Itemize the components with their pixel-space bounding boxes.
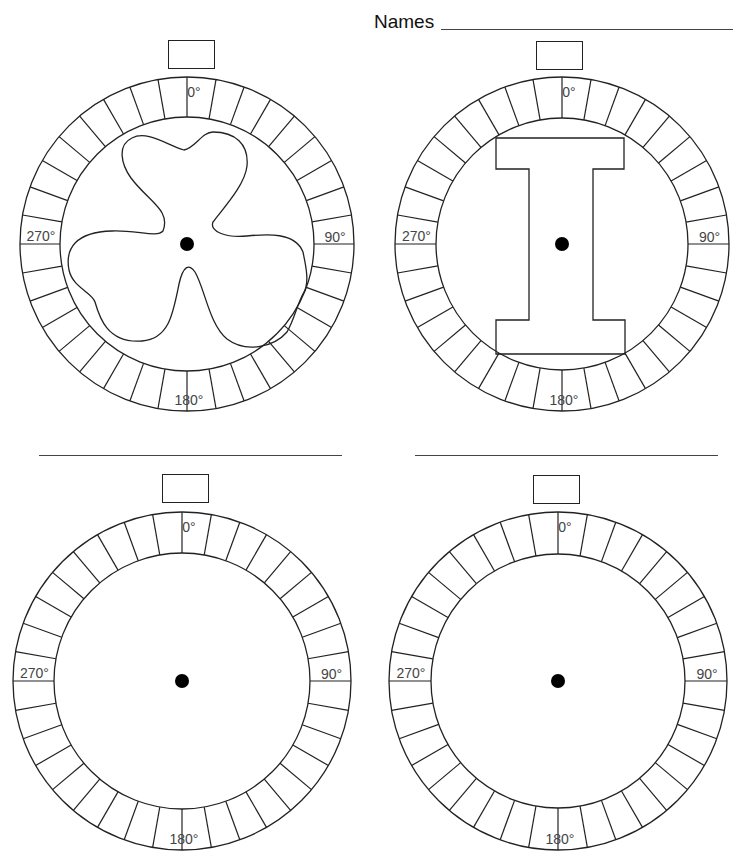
degree-tick bbox=[226, 801, 240, 840]
degree-tick bbox=[643, 341, 669, 372]
degree-tick bbox=[30, 287, 68, 301]
degree-tick bbox=[505, 362, 519, 401]
degree-tick bbox=[584, 368, 591, 408]
label-270: 270° bbox=[402, 228, 431, 244]
degree-tick bbox=[302, 623, 341, 637]
label-90: 90° bbox=[321, 666, 342, 682]
degree-tick bbox=[98, 792, 119, 828]
degree-tick bbox=[104, 99, 124, 134]
degree-tick bbox=[671, 161, 707, 182]
degree-tick bbox=[209, 369, 216, 408]
degree-tick bbox=[293, 597, 329, 618]
degree-tick bbox=[399, 724, 438, 738]
degree-tick bbox=[455, 341, 481, 372]
degree-tick bbox=[474, 535, 495, 571]
degree-tick bbox=[302, 725, 341, 739]
degree-tick bbox=[601, 800, 615, 839]
degree-tick bbox=[622, 791, 643, 827]
center-pivot-dot bbox=[175, 674, 189, 688]
degree-tick bbox=[308, 703, 348, 710]
degree-tick bbox=[580, 515, 587, 556]
degree-tick bbox=[312, 266, 351, 273]
label-0: 0° bbox=[562, 84, 575, 100]
degree-tick bbox=[130, 363, 144, 401]
center-pivot-dot bbox=[555, 237, 569, 251]
degree-tick bbox=[686, 266, 726, 273]
degree-tick bbox=[398, 215, 438, 222]
degree-tick bbox=[668, 745, 704, 766]
degree-tick bbox=[53, 572, 84, 598]
degree-tick bbox=[605, 87, 619, 126]
degree-tick bbox=[680, 287, 719, 301]
label-0: 0° bbox=[182, 519, 195, 535]
degree-tick bbox=[280, 763, 311, 789]
degree-tick bbox=[500, 522, 514, 561]
degree-tick bbox=[671, 307, 707, 328]
degree-tick bbox=[529, 806, 536, 847]
degree-tick bbox=[80, 341, 106, 372]
degree-tick bbox=[124, 522, 138, 561]
wheel-3: 0°90°180°270° bbox=[13, 512, 351, 850]
degree-tick bbox=[59, 326, 90, 352]
degree-tick bbox=[533, 80, 540, 120]
degree-tick bbox=[73, 552, 99, 583]
degree-tick bbox=[399, 623, 438, 637]
degree-tick bbox=[392, 652, 433, 659]
degree-tick bbox=[500, 800, 514, 839]
degree-tick bbox=[622, 535, 643, 571]
degree-tick bbox=[306, 287, 344, 301]
degree-tick bbox=[640, 778, 667, 810]
degree-tick bbox=[251, 354, 271, 389]
label-90: 90° bbox=[324, 229, 345, 245]
degree-tick bbox=[683, 703, 724, 710]
degree-tick bbox=[80, 116, 106, 147]
wheel-1: 0°90°180°270° bbox=[20, 77, 354, 411]
degree-tick bbox=[601, 522, 615, 561]
label-270: 270° bbox=[20, 665, 49, 681]
label-90: 90° bbox=[696, 666, 717, 682]
degree-tick bbox=[529, 515, 536, 556]
degree-tick bbox=[36, 745, 72, 766]
degree-tick bbox=[269, 341, 295, 372]
degree-tick bbox=[449, 778, 476, 810]
label-180: 180° bbox=[170, 831, 199, 847]
degree-tick bbox=[264, 779, 290, 810]
label-180: 180° bbox=[550, 392, 579, 408]
degree-tick bbox=[297, 308, 332, 328]
degree-tick bbox=[584, 80, 591, 120]
degree-tick bbox=[30, 187, 68, 201]
degree-tick bbox=[153, 515, 160, 555]
degree-tick bbox=[412, 745, 448, 766]
degree-tick bbox=[36, 597, 72, 618]
degree-tick bbox=[643, 116, 669, 147]
label-180: 180° bbox=[175, 392, 204, 408]
degree-tick bbox=[226, 522, 240, 561]
degree-tick bbox=[59, 137, 90, 163]
degree-tick bbox=[429, 572, 461, 599]
degree-tick bbox=[308, 652, 348, 659]
degree-tick bbox=[53, 763, 84, 789]
degree-tick bbox=[42, 308, 77, 328]
degree-tick bbox=[158, 369, 165, 408]
degree-tick bbox=[42, 161, 77, 181]
label-180: 180° bbox=[546, 831, 575, 847]
degree-tick bbox=[686, 215, 726, 222]
degree-tick bbox=[398, 266, 438, 273]
label-270: 270° bbox=[397, 665, 426, 681]
degree-tick bbox=[158, 80, 165, 119]
degree-tick bbox=[251, 99, 271, 134]
degree-tick bbox=[659, 325, 690, 351]
degree-tick bbox=[269, 116, 295, 147]
degree-tick bbox=[130, 87, 144, 125]
degree-tick bbox=[405, 287, 444, 301]
degree-tick bbox=[392, 703, 433, 710]
label-90: 90° bbox=[699, 229, 720, 245]
degree-tick bbox=[16, 652, 56, 659]
degree-tick bbox=[23, 266, 62, 273]
degree-tick bbox=[98, 535, 119, 571]
degree-tick bbox=[124, 801, 138, 840]
degree-tick bbox=[625, 353, 646, 389]
degree-tick bbox=[677, 724, 716, 738]
degree-tick bbox=[246, 792, 267, 828]
degree-tick bbox=[479, 99, 500, 135]
